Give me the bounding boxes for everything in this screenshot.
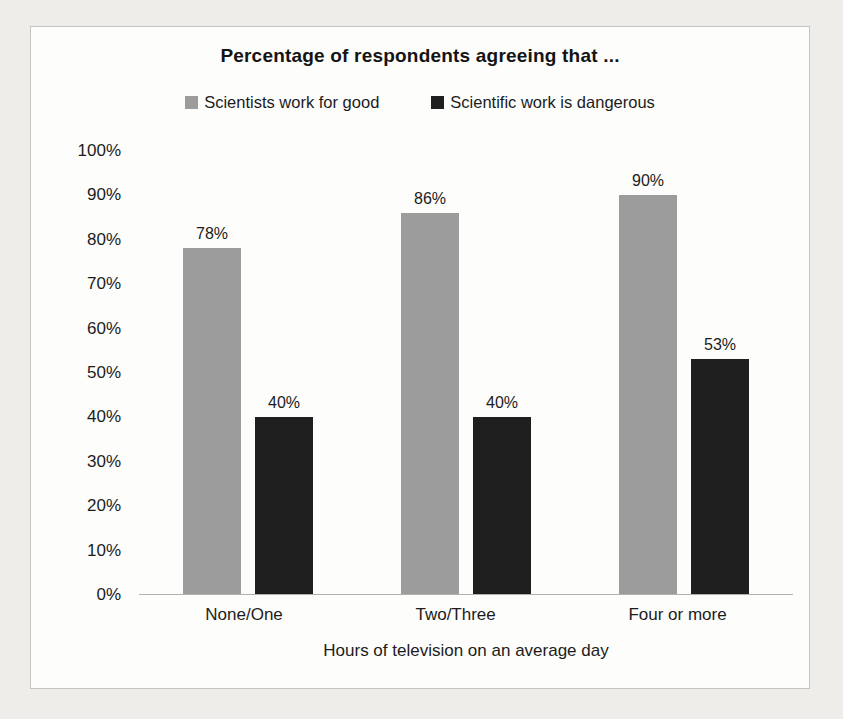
x-axis-category-label: None/One [205,605,283,625]
y-axis-tick-label: 50% [87,363,121,383]
bar-groups: 78%40%86%40%90%53% [139,151,793,594]
x-axis-title: Hours of television on an average day [139,641,793,661]
plot-area: 78%40%86%40%90%53% [139,151,793,595]
bar-value-label: 86% [414,190,446,208]
category-labels: None/OneTwo/ThreeFour or more [139,605,793,625]
bar-value-label: 53% [704,336,736,354]
chart-frame: Percentage of respondents agreeing that … [30,26,810,689]
x-axis-category-label: Two/Three [415,605,495,625]
y-axis: 0%10%20%30%40%50%60%70%80%90%100% [31,151,127,595]
y-axis-tick-label: 70% [87,274,121,294]
legend-entry-scientists-work-for-good: Scientists work for good [185,93,379,112]
y-axis-tick-label: 90% [87,185,121,205]
bar-scientific-work-is-dangerous: 40% [473,417,531,594]
chart-title: Percentage of respondents agreeing that … [31,45,809,67]
x-axis-category-label: Four or more [628,605,726,625]
bar-value-label: 90% [632,172,664,190]
legend-entry-scientific-work-is-dangerous: Scientific work is dangerous [431,93,655,112]
bar-scientists-work-for-good: 78% [183,248,241,594]
bar-value-label: 40% [486,394,518,412]
y-axis-tick-label: 60% [87,319,121,339]
bar-group-none-one: 78%40% [183,151,313,594]
y-axis-tick-label: 30% [87,452,121,472]
legend: Scientists work for goodScientific work … [31,93,809,112]
y-axis-tick-label: 20% [87,496,121,516]
page-background: Percentage of respondents agreeing that … [0,0,843,719]
legend-marker-icon [431,96,444,109]
bar-scientific-work-is-dangerous: 53% [691,359,749,594]
legend-marker-icon [185,96,198,109]
bar-value-label: 78% [196,225,228,243]
y-axis-tick-label: 80% [87,230,121,250]
bar-group-two-three: 86%40% [401,151,531,594]
bar-scientific-work-is-dangerous: 40% [255,417,313,594]
legend-label: Scientific work is dangerous [450,93,655,112]
bar-scientists-work-for-good: 90% [619,195,677,594]
y-axis-tick-label: 40% [87,407,121,427]
y-axis-tick-label: 0% [96,585,121,605]
legend-label: Scientists work for good [204,93,379,112]
bar-value-label: 40% [268,394,300,412]
y-axis-tick-label: 10% [87,541,121,561]
y-axis-tick-label: 100% [78,141,121,161]
bar-scientists-work-for-good: 86% [401,213,459,594]
bar-group-four-or-more: 90%53% [619,151,749,594]
